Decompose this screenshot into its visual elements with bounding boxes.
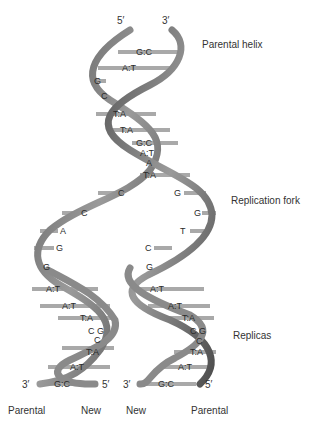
svg-text:T:A: T:A	[143, 170, 156, 180]
svg-text:T:A: T:A	[86, 347, 99, 357]
svg-text:C: C	[118, 188, 125, 198]
svg-text:C: C	[81, 208, 88, 218]
dna-replication-diagram: G:C A:T G C T:A T:A G:C A:T A T:A C C A …	[0, 0, 320, 429]
left-5-prime-label: 5′	[102, 380, 109, 390]
svg-text:G: G	[174, 188, 181, 198]
svg-text:G: G	[94, 76, 101, 86]
parental-helix-label: Parental helix	[202, 40, 263, 50]
svg-text:T:A: T:A	[80, 313, 93, 323]
left-3-prime-label: 3′	[22, 380, 29, 390]
right-3-prime-label: 3′	[123, 380, 130, 390]
svg-text:G:C: G:C	[136, 47, 153, 57]
svg-text:A:T: A:T	[122, 63, 137, 73]
right-5-prime-label: 5′	[205, 380, 212, 390]
svg-text:C: C	[94, 335, 101, 345]
svg-text:C: C	[101, 91, 108, 101]
left-new-label: New	[81, 406, 101, 416]
svg-text:T:A: T:A	[120, 125, 133, 135]
svg-text:A:T: A:T	[46, 284, 61, 294]
svg-text:C: C	[145, 243, 152, 253]
svg-text:G:C: G:C	[136, 138, 153, 148]
svg-text:T:A: T:A	[182, 313, 195, 323]
dna-ribbons	[38, 30, 212, 384]
svg-text:A: A	[146, 158, 152, 168]
svg-text:C: C	[196, 336, 203, 346]
top-5-prime-label: 5′	[117, 16, 124, 26]
svg-text:G: G	[194, 208, 201, 218]
left-parental-label: Parental	[8, 406, 45, 416]
svg-text:T:A: T:A	[190, 347, 203, 357]
svg-text:A: A	[60, 226, 66, 236]
replication-fork-label: Replication fork	[231, 196, 300, 206]
svg-text:A:T: A:T	[140, 148, 155, 158]
right-new-label: New	[126, 406, 146, 416]
svg-text:T:A: T:A	[113, 109, 126, 119]
svg-text:A:T: A:T	[70, 362, 85, 372]
svg-text:A:T: A:T	[178, 362, 193, 372]
svg-text:A:T: A:T	[150, 284, 165, 294]
svg-text:C G: C G	[190, 326, 206, 336]
svg-text:A:T: A:T	[168, 301, 183, 311]
svg-text:G: G	[56, 243, 63, 253]
svg-text:G: G	[146, 262, 153, 272]
svg-text:G: G	[43, 262, 50, 272]
svg-text:G:C: G:C	[158, 379, 175, 389]
svg-text:T: T	[180, 226, 186, 236]
svg-text:A:T: A:T	[62, 301, 77, 311]
svg-text:G:C: G:C	[54, 379, 71, 389]
top-3-prime-label: 3′	[162, 16, 169, 26]
right-parental-label: Parental	[191, 406, 228, 416]
replicas-label: Replicas	[233, 331, 271, 341]
